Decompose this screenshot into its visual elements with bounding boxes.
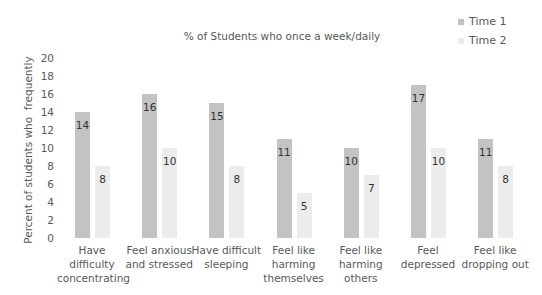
bar-time-1 bbox=[142, 94, 157, 238]
bar-value-label: 8 bbox=[229, 173, 244, 185]
y-tick-label: 4 bbox=[38, 196, 54, 208]
y-tick-label: 0 bbox=[38, 232, 54, 244]
plot-area: 14816101581151071710118 bbox=[60, 58, 530, 238]
bar-value-label: 11 bbox=[277, 146, 292, 158]
bar-value-label: 7 bbox=[364, 182, 379, 194]
y-tick-label: 20 bbox=[38, 52, 54, 64]
x-category-label: Feel likeharmingthemselves bbox=[259, 243, 329, 285]
bar-value-label: 17 bbox=[411, 92, 426, 104]
bar-value-label: 11 bbox=[478, 146, 493, 158]
legend-label: Time 1 bbox=[469, 15, 506, 28]
legend-item-time-2: Time 2 bbox=[458, 31, 506, 50]
legend: Time 1 Time 2 bbox=[458, 12, 506, 50]
y-tick-label: 8 bbox=[38, 160, 54, 172]
bar-time-1 bbox=[411, 85, 426, 238]
x-category-label: Feel anxiousand stressed bbox=[124, 243, 194, 271]
x-category-label: Feel likeharmingothers bbox=[326, 243, 396, 285]
legend-swatch-time-2 bbox=[458, 38, 464, 44]
bar-value-label: 10 bbox=[344, 155, 359, 167]
y-tick-label: 6 bbox=[38, 178, 54, 190]
x-category-label: Feeldepressed bbox=[393, 243, 463, 271]
bar-value-label: 8 bbox=[498, 173, 513, 185]
bar-value-label: 8 bbox=[95, 173, 110, 185]
y-tick-label: 12 bbox=[38, 124, 54, 136]
bar-time-1 bbox=[209, 103, 224, 238]
y-tick-label: 10 bbox=[38, 142, 54, 154]
x-category-label: Have difficultsleeping bbox=[191, 243, 261, 271]
legend-swatch-time-1 bbox=[458, 19, 464, 25]
bar-value-label: 16 bbox=[142, 101, 157, 113]
bar-value-label: 10 bbox=[431, 155, 446, 167]
bar-value-label: 15 bbox=[209, 110, 224, 122]
x-category-label: Feel likedropping out bbox=[460, 243, 530, 271]
bar-value-label: 14 bbox=[75, 119, 90, 131]
y-tick-label: 14 bbox=[38, 106, 54, 118]
bar-value-label: 5 bbox=[297, 200, 312, 212]
y-axis-label: Percent of students who frequently bbox=[22, 50, 34, 250]
bar-value-label: 10 bbox=[162, 155, 177, 167]
y-tick-label: 16 bbox=[38, 88, 54, 100]
y-tick-label: 18 bbox=[38, 70, 54, 82]
y-tick-label: 2 bbox=[38, 214, 54, 226]
x-category-label: Havedifficultyconcentrating bbox=[57, 243, 127, 285]
legend-item-time-1: Time 1 bbox=[458, 12, 506, 31]
legend-label: Time 2 bbox=[469, 34, 506, 47]
